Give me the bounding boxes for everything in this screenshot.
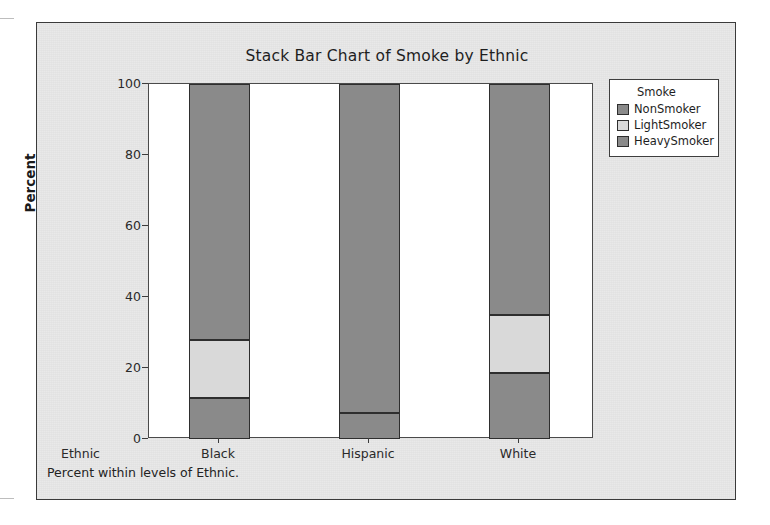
y-tick-mark-0 bbox=[142, 438, 148, 439]
legend-item-lightsmoker[interactable]: LightSmoker bbox=[617, 118, 711, 132]
chart-footnote: Percent within levels of Ethnic. bbox=[47, 465, 239, 480]
legend-item-heavysmoker[interactable]: HeavySmoker bbox=[617, 134, 711, 148]
legend-swatch-lightsmoker bbox=[617, 120, 629, 131]
y-tick-label-20: 20 bbox=[99, 360, 141, 375]
bar-group-hispanic[interactable] bbox=[339, 84, 400, 439]
x-axis-name: Ethnic bbox=[61, 446, 100, 461]
x-tick-label-hispanic: Hispanic bbox=[318, 446, 418, 461]
bar-group-white[interactable] bbox=[489, 84, 550, 439]
x-tick-label-black: Black bbox=[168, 446, 268, 461]
plot-area bbox=[148, 83, 593, 438]
bar-segment-white-lightsmoker[interactable] bbox=[489, 315, 550, 373]
legend-label-nonsmoker: NonSmoker bbox=[634, 102, 701, 116]
legend-title: Smoke bbox=[637, 85, 711, 99]
legend-swatch-nonsmoker bbox=[617, 104, 629, 115]
page-edge-artifact-bottom bbox=[0, 498, 14, 499]
legend-swatch-heavysmoker bbox=[617, 136, 629, 147]
bar-group-black[interactable] bbox=[189, 84, 250, 439]
legend-item-nonsmoker[interactable]: NonSmoker bbox=[617, 102, 711, 116]
chart-frame: Stack Bar Chart of Smoke by Ethnic Perce… bbox=[36, 22, 736, 500]
legend-label-lightsmoker: LightSmoker bbox=[634, 118, 706, 132]
bar-segment-black-heavysmoker[interactable] bbox=[189, 398, 250, 439]
x-tick-label-white: White bbox=[468, 446, 568, 461]
bar-segment-hispanic-nonsmoker[interactable] bbox=[339, 84, 400, 413]
y-tick-label-80: 80 bbox=[99, 147, 141, 162]
y-tick-label-60: 60 bbox=[99, 218, 141, 233]
x-tick-mark-black bbox=[218, 438, 219, 443]
bar-segment-white-heavysmoker[interactable] bbox=[489, 373, 550, 439]
legend-label-heavysmoker: HeavySmoker bbox=[634, 134, 714, 148]
y-tick-label-0: 0 bbox=[99, 431, 141, 446]
y-axis-title: Percent bbox=[22, 154, 38, 213]
bar-segment-white-nonsmoker[interactable] bbox=[489, 84, 550, 315]
y-tick-label-40: 40 bbox=[99, 289, 141, 304]
page-edge-artifact-top bbox=[0, 18, 14, 19]
legend: Smoke NonSmoker LightSmoker HeavySmoker bbox=[609, 79, 719, 157]
bar-segment-black-nonsmoker[interactable] bbox=[189, 84, 250, 340]
x-tick-mark-white bbox=[518, 438, 519, 443]
chart-title: Stack Bar Chart of Smoke by Ethnic bbox=[37, 47, 737, 65]
bar-segment-black-lightsmoker[interactable] bbox=[189, 340, 250, 399]
bar-segment-hispanic-heavysmoker[interactable] bbox=[339, 413, 400, 439]
y-tick-label-100: 100 bbox=[99, 76, 141, 91]
x-tick-mark-hispanic bbox=[368, 438, 369, 443]
